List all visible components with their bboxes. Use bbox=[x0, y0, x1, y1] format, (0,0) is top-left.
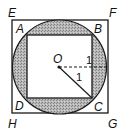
label-d: D bbox=[15, 99, 24, 113]
label-f: F bbox=[109, 6, 117, 20]
label-b: B bbox=[94, 22, 102, 36]
label-e: E bbox=[8, 6, 17, 20]
label-g: G bbox=[108, 117, 117, 131]
label-o: O bbox=[53, 52, 62, 66]
label-radius-solid: 1 bbox=[76, 71, 82, 83]
label-radius-dashed: 1 bbox=[86, 54, 92, 66]
label-a: A bbox=[15, 22, 24, 36]
label-c: C bbox=[94, 100, 103, 114]
geometry-diagram: E F G H A B C D O 1 1 bbox=[0, 0, 122, 135]
label-h: H bbox=[8, 117, 17, 131]
